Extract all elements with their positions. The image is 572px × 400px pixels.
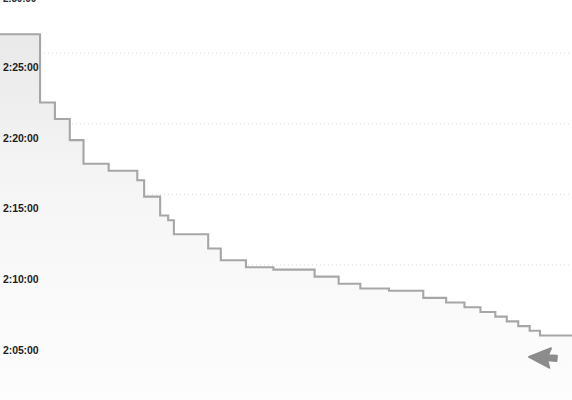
x-axis-tick-label: · — [95, 389, 98, 399]
step-chart-container: 2:30:00 2:25:002:20:002:15:002:10:002:05… — [0, 0, 572, 400]
chart-plot-area — [0, 0, 572, 400]
x-axis-tick-label: · — [367, 389, 370, 399]
x-axis-tick-label: · — [299, 389, 302, 399]
x-axis-tick-label: · — [165, 389, 168, 399]
y-axis-tick-label: 2:10:00 — [3, 273, 39, 285]
y-axis-tick-label: 2:05:00 — [3, 344, 39, 356]
x-axis-tick-label: · — [29, 389, 32, 399]
x-axis-tick-label: · — [231, 389, 234, 399]
chart-area-fill — [0, 34, 572, 400]
y-axis-tick-label: 2:20:00 — [3, 132, 39, 144]
y-axis-tick-label: 2:15:00 — [3, 202, 39, 214]
y-axis-tick-label: 2:25:00 — [3, 61, 39, 73]
